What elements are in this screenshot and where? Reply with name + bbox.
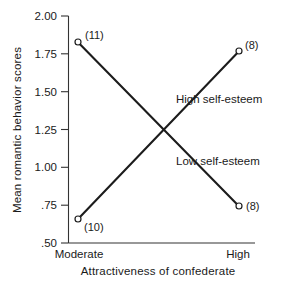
point-label-high-moderate: (10): [84, 221, 104, 233]
series-label-high-self-esteem: High self-esteem: [176, 93, 262, 105]
line-chart: 2.00 1.75 1.50 1.25 1.00 .75 .50 (11) (8…: [0, 0, 296, 281]
series-line-high-self-esteem: [79, 52, 238, 218]
data-point-low-high: [236, 203, 242, 209]
data-point-low-moderate: [75, 39, 81, 45]
series-label-low-self-esteem: Low self-esteem: [176, 155, 260, 167]
chart-figure: 2.00 1.75 1.50 1.25 1.00 .75 .50 (11) (8…: [0, 0, 296, 281]
y-axis-title: Mean romantic behavior scores: [11, 47, 23, 213]
series-line-low-self-esteem: [79, 43, 238, 205]
y-tick-label-0-75: .75: [41, 199, 57, 211]
data-point-high-high: [236, 48, 242, 54]
y-tick-label-1-50: 1.50: [35, 86, 57, 98]
y-tick-label-2-00: 2.00: [35, 10, 57, 22]
data-point-high-moderate: [75, 216, 81, 222]
point-label-low-high: (8): [246, 200, 259, 212]
y-tick-label-1-25: 1.25: [35, 124, 57, 136]
point-label-high-high: (8): [245, 39, 258, 51]
x-tick-label-high: High: [226, 248, 250, 260]
y-tick-label-1-00: 1.00: [35, 161, 57, 173]
x-tick-label-moderate: Moderate: [55, 248, 104, 260]
y-tick-label-1-75: 1.75: [35, 48, 57, 60]
x-axis-title: Attractiveness of confederate: [81, 265, 236, 277]
point-label-low-moderate: (11): [85, 29, 104, 41]
